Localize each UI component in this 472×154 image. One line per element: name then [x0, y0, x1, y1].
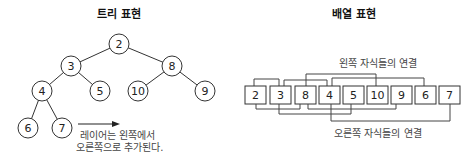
diagram-canvas: 트리 표현 배열 표현 2 3 8 4 5 10 9 6 7 레이어는 왼쪽에서… [0, 0, 472, 154]
array-cell: 9 [391, 86, 412, 104]
svg-text:10: 10 [131, 85, 145, 98]
tree-node: 3 [61, 56, 81, 76]
svg-text:4: 4 [326, 89, 333, 102]
svg-text:8: 8 [169, 60, 176, 73]
svg-text:9: 9 [202, 85, 209, 98]
svg-text:7: 7 [59, 122, 66, 135]
array-cell: 5 [343, 86, 364, 104]
tree-caption-line1: 레이어는 왼쪽에서 [80, 130, 155, 141]
svg-text:6: 6 [25, 122, 32, 135]
tree-node: 9 [195, 81, 215, 101]
left-child-links [254, 74, 424, 86]
tree-node: 7 [52, 118, 72, 138]
svg-text:10: 10 [371, 89, 385, 102]
tree-node: 5 [90, 81, 110, 101]
array-cell: 6 [415, 86, 436, 104]
tree-node: 8 [162, 56, 182, 76]
svg-text:9: 9 [398, 89, 405, 102]
svg-text:3: 3 [68, 60, 75, 73]
svg-text:7: 7 [446, 89, 453, 102]
array-cell: 3 [270, 86, 291, 104]
tree-node: 2 [109, 34, 129, 54]
right-child-links [256, 104, 450, 121]
tree-title: 트리 표현 [97, 7, 141, 21]
array-title: 배열 표현 [332, 7, 376, 21]
tree-nodes: 2 3 8 4 5 10 9 6 7 [18, 34, 215, 138]
svg-text:8: 8 [302, 89, 309, 102]
svg-text:2: 2 [116, 38, 123, 51]
tree-caption-line2: 오른쪽으로 추가된다. [76, 142, 163, 153]
svg-text:3: 3 [277, 89, 284, 102]
array-cell: 4 [319, 86, 340, 104]
tree-node: 6 [18, 118, 38, 138]
svg-text:6: 6 [422, 89, 429, 102]
array-cell: 7 [439, 86, 460, 104]
array-cell: 10 [367, 86, 388, 104]
svg-text:5: 5 [97, 85, 104, 98]
tree-node: 4 [32, 81, 52, 101]
right-arrow-icon [78, 121, 120, 127]
tree-node: 10 [128, 81, 148, 101]
svg-text:5: 5 [350, 89, 357, 102]
svg-text:2: 2 [252, 89, 259, 102]
right-links-label: 오른쪽 자식들의 연결 [334, 128, 421, 139]
array-cell: 8 [295, 86, 316, 104]
left-links-label: 왼쪽 자식들의 연결 [339, 58, 417, 69]
svg-text:4: 4 [39, 85, 46, 98]
array-cell: 2 [245, 86, 266, 104]
array-cells: 2 3 8 4 5 10 9 6 7 [245, 86, 460, 104]
tree-edges [28, 44, 205, 128]
